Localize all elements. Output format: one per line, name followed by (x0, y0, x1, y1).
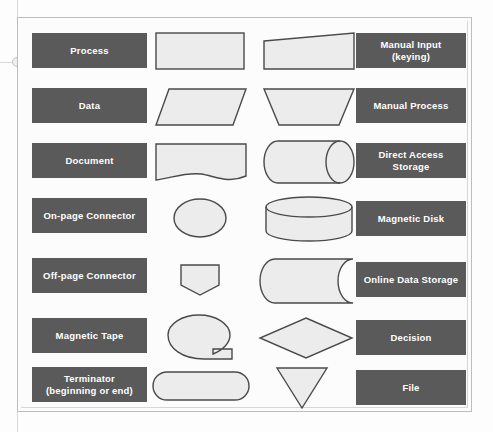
label-text-manual-input: Manual Input (keying) (381, 39, 442, 63)
label-text-process: Process (70, 45, 108, 57)
label-bar-direct-access-storage: Direct Access Storage (356, 143, 466, 178)
shape-rectangle-process (155, 32, 245, 70)
shape-vertical-cylinder-magnetic-disk (265, 196, 353, 242)
label-bar-terminator: Terminator (beginning or end) (32, 367, 147, 402)
label-text-data: Data (79, 100, 100, 112)
shape-triangle-down-file (276, 367, 328, 409)
label-text-direct-access-storage: Direct Access Storage (378, 149, 443, 173)
label-text-magnetic-disk: Magnetic Disk (378, 213, 444, 225)
label-bar-document: Document (32, 143, 147, 178)
shape-document-wave (155, 143, 247, 185)
label-text-off-page-connector: Off-page Connector (43, 270, 136, 282)
label-bar-off-page-connector: Off-page Connector (32, 258, 147, 293)
label-bar-online-data-storage: Online Data Storage (356, 262, 466, 297)
label-text-online-data-storage: Online Data Storage (364, 274, 459, 286)
shape-parallelogram-data (155, 88, 247, 126)
label-bar-on-page-connector: On-page Connector (32, 198, 147, 233)
label-text-terminator: Terminator (beginning or end) (46, 373, 133, 397)
shape-horizontal-cylinder-direct-access-storage (263, 140, 355, 184)
label-text-document: Document (65, 155, 113, 167)
shape-ellipse-on-page-connector (173, 198, 227, 238)
label-text-decision: Decision (390, 332, 431, 344)
label-bar-manual-process: Manual Process (356, 88, 466, 123)
shape-diamond-decision (259, 317, 353, 359)
label-text-on-page-connector: On-page Connector (43, 210, 135, 222)
shape-stored-data-online-data-storage (262, 258, 354, 304)
shape-pentagon-down-off-page-connector (180, 264, 220, 296)
label-bar-file: File (356, 370, 466, 405)
label-bar-magnetic-tape: Magnetic Tape (32, 318, 147, 353)
label-bar-decision: Decision (356, 320, 466, 355)
shape-stadium-terminator (152, 371, 250, 401)
label-bar-manual-input: Manual Input (keying) (356, 33, 466, 68)
label-text-manual-process: Manual Process (373, 100, 448, 112)
shape-slanted-top-manual-input (263, 32, 355, 70)
label-bar-magnetic-disk: Magnetic Disk (356, 201, 466, 236)
label-text-file: File (402, 382, 419, 394)
flowchart-symbols-legend: Process Data Document On-page Connector … (0, 0, 493, 432)
label-bar-process: Process (32, 33, 147, 68)
shape-circle-with-tab-magnetic-tape (164, 314, 236, 362)
label-text-magnetic-tape: Magnetic Tape (56, 330, 124, 342)
shape-inverted-trapezoid-manual-process (263, 88, 355, 126)
label-bar-data: Data (32, 88, 147, 123)
